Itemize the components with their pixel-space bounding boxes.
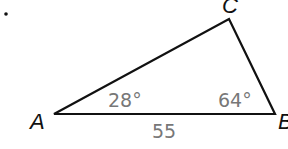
- angle-b-measure: 64°: [218, 89, 252, 111]
- angle-a-measure: 28°: [108, 89, 142, 111]
- vertex-label-a: A: [28, 109, 45, 134]
- problem-marker-dot: [4, 12, 8, 16]
- triangle-diagram: A B C 28° 64° 55: [0, 0, 288, 149]
- vertex-label-b: B: [278, 109, 288, 134]
- side-ab-length: 55: [152, 120, 176, 142]
- vertex-label-c: C: [222, 0, 238, 18]
